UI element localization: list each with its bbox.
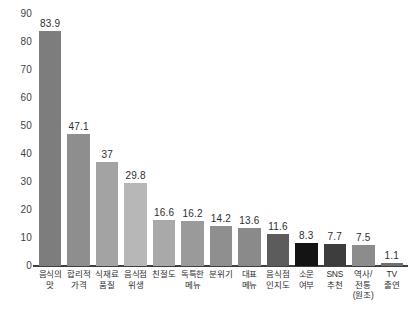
bar-slot: 7.7: [321, 14, 349, 266]
bar-slot: 47.1: [64, 14, 92, 266]
bar[interactable]: [295, 243, 317, 266]
y-axis-tick-50: 50: [0, 121, 32, 131]
bar-chart: 9080706050403020100 83.947.13729.816.616…: [0, 0, 411, 317]
bar-slot: 7.5: [349, 14, 377, 266]
bar-slot: 29.8: [121, 14, 149, 266]
bar[interactable]: [324, 244, 346, 266]
bar-slot: 11.6: [264, 14, 292, 266]
bar[interactable]: [238, 228, 260, 266]
y-axis-tick-70: 70: [0, 65, 32, 75]
y-axis-tick-10: 10: [0, 233, 32, 243]
bar[interactable]: [124, 183, 146, 266]
bar-slot: 37: [93, 14, 121, 266]
bar[interactable]: [181, 221, 203, 266]
x-axis-label: TV 출연: [374, 269, 410, 290]
y-axis-tick-labels: 9080706050403020100: [0, 14, 32, 266]
y-axis-tick-40: 40: [0, 149, 32, 159]
bar-slot: 14.2: [207, 14, 235, 266]
bar[interactable]: [39, 31, 61, 266]
y-axis-tick-80: 80: [0, 37, 32, 47]
bar-slot: 83.9: [36, 14, 64, 266]
bar[interactable]: [210, 226, 232, 266]
y-axis-tick-60: 60: [0, 93, 32, 103]
y-axis-tick-30: 30: [0, 177, 32, 187]
y-axis-tick-20: 20: [0, 205, 32, 215]
bar-series: 83.947.13729.816.616.214.213.611.68.37.7…: [36, 14, 406, 266]
bar-slot: 1.1: [378, 14, 406, 266]
bar[interactable]: [381, 263, 403, 266]
bar[interactable]: [153, 220, 175, 266]
x-axis-category-labels: 음식의 맛합리적 가격식재료 품질음식점 위생친절도독특한 메뉴분위기대표 메뉴…: [36, 269, 406, 315]
bar-slot: 16.2: [178, 14, 206, 266]
bar-slot: 8.3: [292, 14, 320, 266]
bar-value-label: 1.1: [372, 250, 411, 261]
y-axis-tick-0: 0: [0, 261, 32, 271]
y-axis-tick-90: 90: [0, 9, 32, 19]
bar-slot: 16.6: [150, 14, 178, 266]
